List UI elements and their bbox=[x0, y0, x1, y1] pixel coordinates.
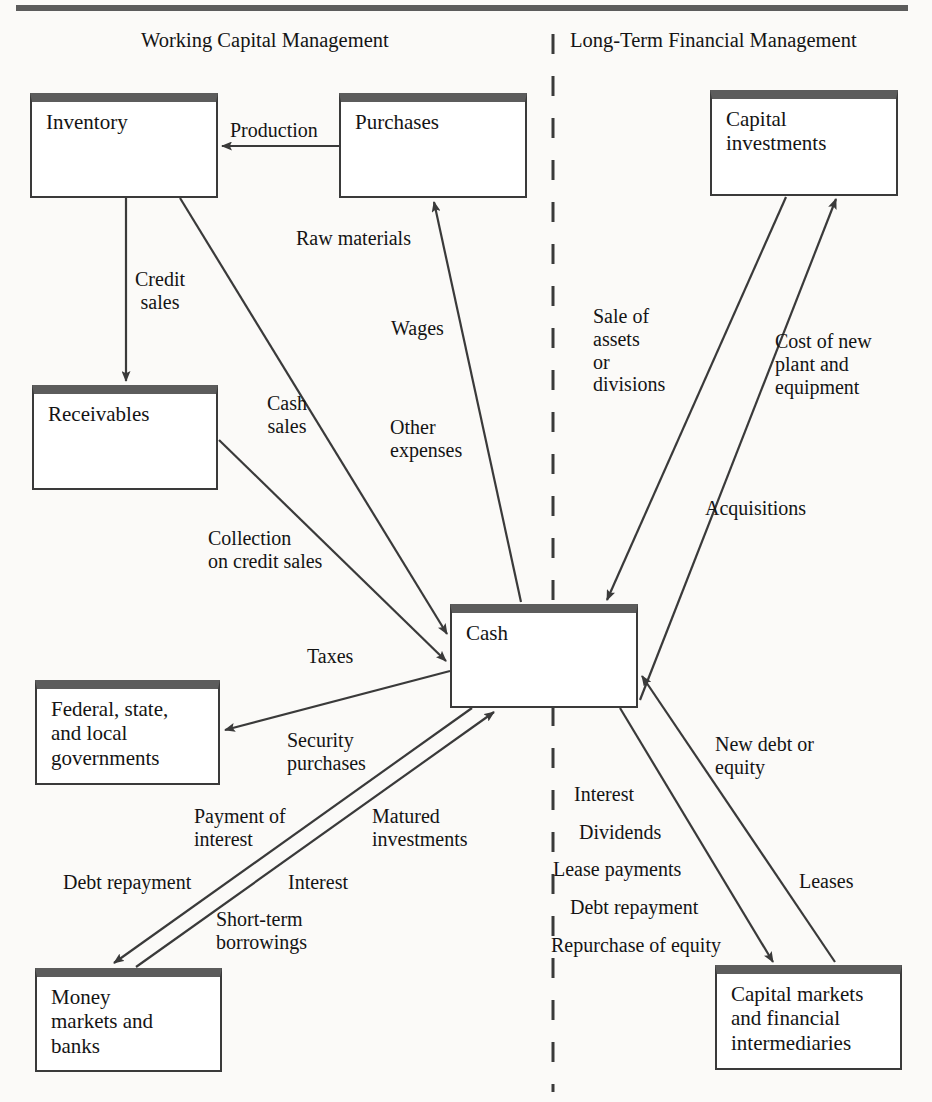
arrow-taxes bbox=[225, 671, 450, 730]
arrow-new-debt-or-equity bbox=[642, 676, 835, 962]
edge-label-taxes: Taxes bbox=[307, 645, 353, 668]
node-purchases[interactable]: Purchases bbox=[339, 93, 527, 198]
edge-label-debt-repayment-left: Debt repayment bbox=[63, 871, 191, 894]
node-receivables-label: Receivables bbox=[48, 402, 149, 426]
node-inventory[interactable]: Inventory bbox=[30, 93, 218, 198]
node-purchases-label: Purchases bbox=[355, 110, 439, 134]
edge-label-collection-on-credit-sales: Collection on credit sales bbox=[208, 527, 322, 573]
node-governments-label: Federal, state, and local governments bbox=[51, 697, 168, 770]
node-capital-investments-label: Capital investments bbox=[726, 107, 826, 156]
edge-label-acquisitions: Acquisitions bbox=[705, 497, 806, 520]
edge-label-leases: Leases bbox=[799, 870, 853, 893]
edge-label-interest-left: Interest bbox=[288, 871, 348, 894]
node-money-markets-label: Money markets and banks bbox=[51, 985, 153, 1058]
node-capital-markets[interactable]: Capital markets and financial intermedia… bbox=[715, 965, 902, 1070]
figure-canvas: Working Capital Management Long-Term Fin… bbox=[0, 0, 932, 1102]
edge-label-debt-repayment-right: Debt repayment bbox=[570, 896, 698, 919]
arrow-capital-expenditures bbox=[640, 199, 836, 700]
arrow-sale-of-assets bbox=[607, 197, 786, 600]
node-capital-markets-label: Capital markets and financial intermedia… bbox=[731, 982, 863, 1055]
edge-label-security-purchases: Security purchases bbox=[287, 729, 366, 775]
edge-label-cash-sales: Cash sales bbox=[267, 392, 307, 438]
edge-label-lease-payments: Lease payments bbox=[553, 858, 681, 881]
node-inventory-label: Inventory bbox=[46, 110, 128, 134]
edge-label-other-expenses: Other expenses bbox=[390, 416, 462, 462]
node-cash-label: Cash bbox=[466, 621, 508, 645]
edge-label-cost-of-new-plant: Cost of new plant and equipment bbox=[775, 330, 872, 398]
node-governments[interactable]: Federal, state, and local governments bbox=[35, 680, 220, 785]
edge-label-matured-investments: Matured investments bbox=[372, 805, 468, 851]
edge-label-raw-materials: Raw materials bbox=[296, 227, 411, 250]
node-capital-investments[interactable]: Capital investments bbox=[710, 90, 898, 196]
node-money-markets[interactable]: Money markets and banks bbox=[35, 968, 222, 1072]
edge-label-credit-sales: Credit sales bbox=[135, 268, 185, 314]
edge-label-payment-of-interest: Payment of interest bbox=[194, 805, 286, 851]
edge-label-short-term-borrowings: Short-term borrowings bbox=[216, 908, 307, 954]
edge-label-repurchase-of-equity: Repurchase of equity bbox=[551, 934, 721, 957]
edge-label-production: Production bbox=[230, 119, 318, 142]
arrow-operating-expenses bbox=[434, 202, 521, 602]
edge-label-sale-of-assets: Sale of assets or divisions bbox=[593, 305, 665, 396]
edge-label-interest-right: Interest bbox=[574, 783, 634, 806]
node-receivables[interactable]: Receivables bbox=[32, 385, 218, 490]
edge-label-new-debt-or-equity: New debt or equity bbox=[715, 733, 814, 779]
node-cash[interactable]: Cash bbox=[450, 604, 638, 708]
edge-label-dividends: Dividends bbox=[579, 821, 661, 844]
edge-label-wages: Wages bbox=[391, 317, 444, 340]
